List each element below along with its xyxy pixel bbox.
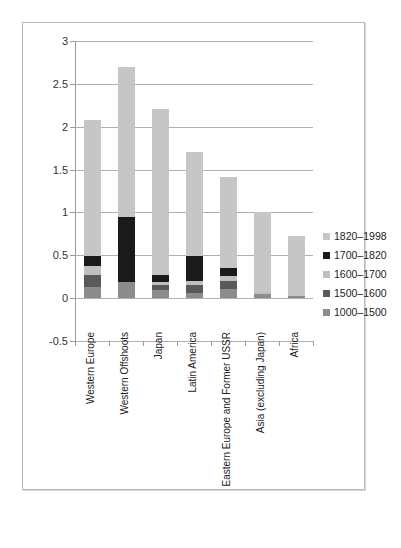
x-axis-label: Western Offshoots — [120, 332, 130, 414]
legend-item[interactable]: 1000–1500 — [323, 303, 401, 322]
bar-africa[interactable] — [288, 41, 305, 341]
x-axis-label: Africa — [290, 332, 300, 358]
x-tick-mark — [313, 341, 314, 346]
bar-segment — [186, 152, 203, 256]
bar-western-europe[interactable] — [84, 41, 101, 341]
y-tick-label: 1.5 — [53, 164, 68, 175]
plot-area: 32.521.510.50-0.5 — [75, 41, 313, 341]
y-tick-label: -0.5 — [49, 336, 68, 347]
bar-segment — [220, 177, 237, 268]
y-tick-label: 1 — [62, 207, 68, 218]
x-axis-label: Eastern Europe and Former USSR — [222, 332, 232, 487]
bar-segment — [186, 285, 203, 293]
y-tick-mark — [70, 170, 75, 171]
y-axis — [75, 41, 76, 341]
bar-segment — [152, 282, 169, 285]
x-tick-mark — [143, 341, 144, 346]
x-axis-label: Western Europe — [86, 332, 96, 404]
y-tick-label: 2 — [62, 121, 68, 132]
x-axis-label: Japan — [154, 332, 164, 359]
bar-segment — [84, 275, 101, 287]
legend-swatch-icon — [323, 233, 330, 240]
chart-legend: 1820–19981700–18201600–17001500–16001000… — [323, 227, 401, 322]
bar-segment — [118, 67, 135, 217]
legend-swatch-icon — [323, 290, 330, 297]
legend-item[interactable]: 1700–1820 — [323, 246, 401, 265]
x-tick-mark — [109, 341, 110, 346]
bar-segment — [254, 294, 271, 298]
y-tick-label: 2.5 — [53, 78, 68, 89]
legend-label: 1500–1600 — [334, 288, 387, 299]
bar-segment — [254, 292, 271, 294]
legend-swatch-icon — [323, 252, 330, 259]
legend-label: 1600–1700 — [334, 269, 387, 280]
legend-item[interactable]: 1500–1600 — [323, 284, 401, 303]
y-tick-mark — [70, 298, 75, 299]
x-axis-label: Asia (excluding Japan) — [256, 332, 266, 433]
x-tick-mark — [177, 341, 178, 346]
bar-segment — [288, 296, 305, 299]
bar-segment — [220, 289, 237, 298]
bar-segment — [152, 290, 169, 298]
bar-western-offshoots[interactable] — [118, 41, 135, 341]
y-tick-label: 0 — [62, 293, 68, 304]
bar-segment — [220, 281, 237, 289]
y-tick-mark — [70, 41, 75, 42]
bar-segment — [220, 268, 237, 276]
bar-japan[interactable] — [152, 41, 169, 341]
bar-segment — [288, 236, 305, 295]
y-tick-mark — [70, 127, 75, 128]
y-tick-mark — [70, 84, 75, 85]
bar-segment — [152, 285, 169, 290]
legend-item[interactable]: 1600–1700 — [323, 265, 401, 284]
chart-frame: 32.521.510.50-0.5 Western EuropeWestern … — [22, 22, 365, 490]
bar-segment — [186, 256, 203, 281]
x-tick-mark — [245, 341, 246, 346]
y-tick-mark — [70, 255, 75, 256]
legend-swatch-icon — [323, 309, 330, 316]
y-tick-label: 0.5 — [53, 250, 68, 261]
x-axis-label: Latin America — [188, 332, 198, 393]
legend-label: 1820–1998 — [334, 231, 387, 242]
y-tick-mark — [70, 212, 75, 213]
bar-segment — [220, 276, 237, 281]
bar-segment — [186, 281, 203, 285]
bar-segment — [152, 109, 169, 275]
bar-segment — [84, 266, 101, 275]
legend-label: 1700–1820 — [334, 250, 387, 261]
bar-segment — [118, 282, 135, 298]
x-tick-mark — [279, 341, 280, 346]
bar-segment — [254, 212, 271, 292]
bar-segment — [152, 275, 169, 282]
legend-label: 1000–1500 — [334, 307, 387, 318]
bar-asia-excluding-japan[interactable] — [254, 41, 271, 341]
bar-segment — [84, 256, 101, 266]
y-tick-label: 3 — [62, 36, 68, 47]
bar-segment — [84, 287, 101, 298]
bar-latin-america[interactable] — [186, 41, 203, 341]
x-tick-mark — [211, 341, 212, 346]
legend-item[interactable]: 1820–1998 — [323, 227, 401, 246]
bar-segment — [84, 120, 101, 256]
bar-segment — [186, 293, 203, 298]
x-tick-mark — [75, 341, 76, 346]
legend-swatch-icon — [323, 271, 330, 278]
bar-eastern-europe-and-former-ussr[interactable] — [220, 41, 237, 341]
bar-segment — [118, 217, 135, 282]
